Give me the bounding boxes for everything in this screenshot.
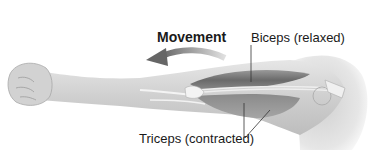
- movement-label: Movement: [157, 30, 226, 44]
- movement-arrow-icon: [146, 48, 225, 66]
- triceps-label: Triceps (contracted): [139, 132, 254, 145]
- biceps-label: Biceps (relaxed): [251, 31, 345, 44]
- arm-diagram: Movement Biceps (relaxed) Triceps (contr…: [0, 0, 376, 160]
- fist: [8, 63, 52, 105]
